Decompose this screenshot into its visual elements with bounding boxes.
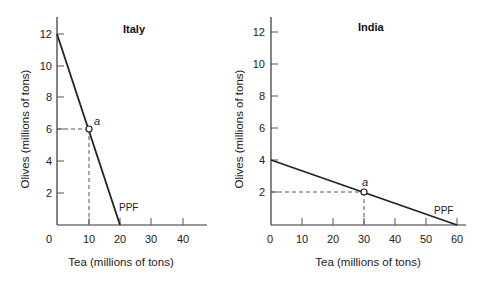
italy-y-axis-label: Olives (millions of tons)	[19, 69, 31, 188]
india-y-tick-12: 12	[253, 26, 265, 38]
italy-ppf-label: PPF	[119, 202, 138, 213]
india-title: India	[358, 21, 385, 33]
india-x-tick-marks	[302, 218, 457, 225]
italy-x-tick-20: 20	[114, 233, 126, 245]
india-x-tick-20: 20	[327, 233, 339, 245]
india-point-a-label: a	[362, 176, 368, 188]
india-y-axis-label: Olives (millions of tons)	[233, 69, 245, 188]
india-y-tick-marks	[271, 32, 278, 192]
italy-y-tick-6: 6	[46, 123, 52, 135]
italy-title: Italy	[123, 23, 146, 35]
india-y-tick-10: 10	[253, 58, 265, 70]
india-x-axis-label: Tea (millions of tons)	[315, 256, 421, 268]
italy-y-tick-8: 8	[46, 91, 52, 103]
italy-origin-label: 0	[46, 233, 52, 245]
ppf-charts: 12 10 8 6 4 2 0 10 20 30 40 Tea (million…	[0, 0, 477, 287]
india-chart: 12 10 8 6 4 2 0 10 20 30 40 50 60 Tea (m…	[233, 17, 466, 268]
india-y-tick-2: 2	[259, 186, 265, 198]
italy-x-tick-10: 10	[83, 233, 95, 245]
italy-y-tick-12: 12	[40, 28, 52, 40]
italy-y-tick-marks	[57, 34, 64, 193]
italy-point-a-label: a	[94, 115, 100, 127]
india-ppf-label: PPF	[434, 205, 453, 216]
india-y-tick-6: 6	[259, 122, 265, 134]
italy-x-tick-30: 30	[145, 233, 157, 245]
italy-x-tick-marks	[89, 218, 183, 225]
india-x-tick-40: 40	[389, 233, 401, 245]
india-point-a	[361, 189, 367, 195]
india-x-tick-10: 10	[296, 233, 308, 245]
italy-y-tick-2: 2	[46, 187, 52, 199]
india-y-tick-8: 8	[259, 90, 265, 102]
italy-x-tick-40: 40	[177, 233, 189, 245]
italy-y-tick-10: 10	[40, 60, 52, 72]
india-x-tick-60: 60	[451, 233, 463, 245]
india-x-tick-50: 50	[420, 233, 432, 245]
india-y-tick-4: 4	[259, 154, 265, 166]
italy-point-a	[86, 126, 92, 132]
italy-x-axis-label: Tea (millions of tons)	[68, 256, 174, 268]
india-x-tick-30: 30	[358, 233, 370, 245]
italy-chart: 12 10 8 6 4 2 0 10 20 30 40 Tea (million…	[19, 17, 207, 268]
italy-y-tick-4: 4	[46, 155, 52, 167]
india-origin-label: 0	[267, 233, 273, 245]
